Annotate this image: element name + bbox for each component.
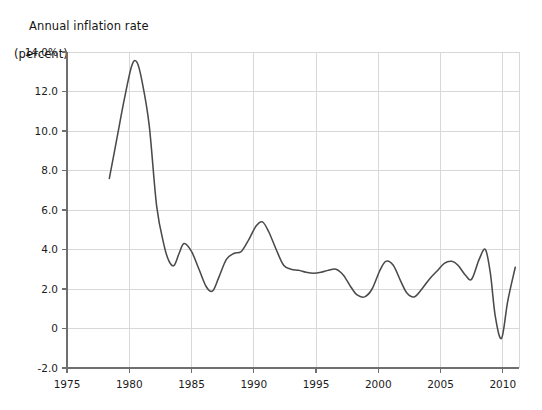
gridlines-group	[67, 52, 519, 368]
y-axis-tick-label: 10.0	[35, 125, 58, 137]
x-axis-tick-label: 1985	[178, 378, 205, 390]
y-axis-tick-label: 4.0	[41, 243, 58, 255]
inflation-line-chart: -2.002.04.06.08.010.012.014.0% 197519801…	[0, 0, 542, 410]
y-axis-tick-label: 6.0	[41, 204, 58, 216]
y-axis-tick-label: 2.0	[41, 283, 58, 295]
y-axis-tick-label: -2.0	[38, 362, 59, 374]
x-axis-tick-label: 1990	[240, 378, 267, 390]
y-axis-tick-label: 0	[51, 322, 58, 334]
series-line-annual-inflation-rate	[109, 60, 515, 338]
y-axis-tick-label: 8.0	[41, 164, 58, 176]
x-axis-tick-label: 2000	[365, 378, 392, 390]
x-axis-tick-label: 1975	[54, 378, 81, 390]
chart-container: Annual inflation rate (percent) -2.002.0…	[0, 0, 542, 410]
y-axis-tick-label: 12.0	[35, 85, 58, 97]
x-axis-tick-label: 1980	[116, 378, 143, 390]
x-axis-labels-group: 19751980198519901995200020052010	[54, 378, 517, 390]
x-axis-tick-label: 2005	[427, 378, 454, 390]
tick-marks-group	[62, 52, 503, 373]
y-axis-labels-group: -2.002.04.06.08.010.012.014.0%	[25, 46, 58, 374]
x-axis-tick-label: 2010	[489, 378, 516, 390]
x-axis-tick-label: 1995	[303, 378, 330, 390]
data-series-group	[109, 60, 515, 338]
y-axis-tick-label: 14.0%	[25, 46, 58, 58]
